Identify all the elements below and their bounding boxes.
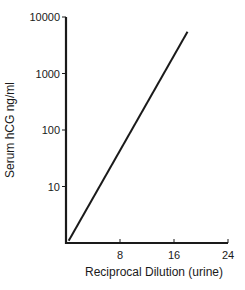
y-axis-title: Serum hCG ng/ml (3, 82, 17, 178)
y-tick-label: 100 (42, 124, 60, 136)
chart: 1010010001000081624 Reciprocal Dilution … (0, 0, 245, 290)
data-series (69, 32, 188, 241)
x-tick-label: 24 (222, 249, 234, 261)
y-tick-label: 1000 (36, 68, 60, 80)
x-tick-label: 16 (168, 249, 180, 261)
x-tick-label: 8 (117, 249, 123, 261)
data-line (69, 32, 188, 241)
x-axis-title: Reciprocal Dilution (urine) (85, 265, 223, 279)
axes (65, 17, 228, 244)
y-tick-label: 10 (48, 181, 60, 193)
y-tick-label: 10000 (29, 11, 60, 23)
tick-marks: 1010010001000081624 (29, 11, 234, 261)
